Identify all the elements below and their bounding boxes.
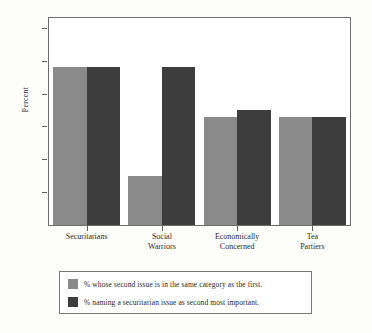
bar — [204, 117, 238, 225]
chart-figure: Percent 102030405060 SecuritariansSocial… — [0, 0, 372, 333]
bar — [87, 67, 121, 225]
x-axis-tick-mark — [87, 226, 88, 231]
bar — [53, 67, 87, 225]
bar — [237, 110, 271, 225]
y-axis-tick-mark — [42, 28, 47, 29]
bars-layer — [49, 18, 350, 225]
legend: % whose second issue is in the same cate… — [59, 271, 312, 314]
y-axis-tick-mark — [42, 159, 47, 160]
legend-label-1: % naming a securitarian issue as second … — [84, 298, 259, 307]
legend-item-0[interactable]: % whose second issue is in the same cate… — [68, 277, 262, 291]
bar — [128, 176, 162, 225]
y-axis-tick-mark — [42, 61, 47, 62]
y-axis-title: Percent — [21, 70, 30, 130]
legend-swatch-dark-icon — [68, 297, 78, 307]
x-axis-tick-label: Tea Partiers — [267, 232, 357, 252]
bar — [162, 67, 196, 225]
x-axis-tick-mark — [162, 226, 163, 231]
y-axis-tick-mark — [42, 192, 47, 193]
x-axis-tick-mark — [312, 226, 313, 231]
x-axis-tick-mark — [237, 226, 238, 231]
y-axis-tick-mark — [42, 94, 47, 95]
bar — [279, 117, 313, 225]
legend-label-0: % whose second issue is in the same cate… — [84, 280, 262, 289]
legend-item-1[interactable]: % naming a securitarian issue as second … — [68, 295, 259, 309]
y-axis-tick-mark — [42, 126, 47, 127]
bar — [312, 117, 346, 225]
legend-swatch-light-icon — [68, 279, 78, 289]
